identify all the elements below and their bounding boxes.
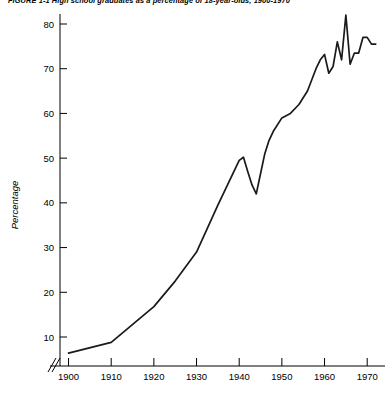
x-tick-label-1950: 1950 bbox=[271, 371, 292, 382]
y-tick-label-50: 50 bbox=[43, 153, 54, 164]
y-tick-label-10: 10 bbox=[43, 332, 54, 343]
y-axis: 1020304050607080 bbox=[43, 14, 67, 366]
y-tick-label-70: 70 bbox=[43, 63, 54, 74]
axis-break-icon bbox=[48, 358, 60, 372]
x-tick-label-1940: 1940 bbox=[229, 371, 250, 382]
y-tick-label-60: 60 bbox=[43, 108, 54, 119]
y-tick-label-group: 1020304050607080 bbox=[43, 19, 54, 343]
x-tick-label-1910: 1910 bbox=[101, 371, 122, 382]
x-tick-label-1920: 1920 bbox=[143, 371, 164, 382]
data-series-group bbox=[69, 15, 376, 353]
x-tick-group bbox=[69, 358, 368, 366]
y-tick-label-40: 40 bbox=[43, 197, 54, 208]
x-tick-label-1900: 1900 bbox=[58, 371, 79, 382]
y-axis-title: Percentage bbox=[9, 181, 20, 230]
series-line-0 bbox=[69, 15, 376, 353]
x-axis: 19001910192019301940195019601970 bbox=[48, 358, 385, 382]
x-tick-label-1970: 1970 bbox=[357, 371, 378, 382]
y-tick-label-20: 20 bbox=[43, 287, 54, 298]
y-tick-label-80: 80 bbox=[43, 19, 54, 30]
x-tick-label-1960: 1960 bbox=[314, 371, 335, 382]
x-tick-label-group: 19001910192019301940195019601970 bbox=[58, 371, 378, 382]
y-tick-label-30: 30 bbox=[43, 242, 54, 253]
x-tick-label-1930: 1930 bbox=[186, 371, 207, 382]
chart-plot-area: 1020304050607080 19001910192019301940195… bbox=[0, 0, 385, 400]
figure-container: FIGURE 1-1 High school graduates as a pe… bbox=[0, 0, 385, 400]
y-tick-group bbox=[60, 24, 67, 337]
